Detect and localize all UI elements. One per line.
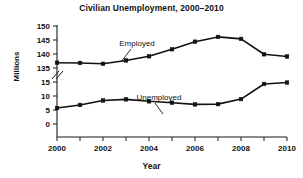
y-tick-label: 145 <box>37 36 51 45</box>
x-tick-label: 2002 <box>94 144 112 153</box>
data-point-marker <box>147 54 151 58</box>
data-point-marker <box>101 62 105 66</box>
data-point-marker <box>216 35 220 39</box>
plot-area: 051015135140145150 200020022004200620082… <box>0 0 303 178</box>
x-tick-label: 2004 <box>140 144 158 153</box>
data-point-marker <box>55 61 59 65</box>
y-tick-label: 15 <box>41 78 50 87</box>
series-annotation-unemployed: Unemployed <box>137 93 182 102</box>
x-axis-ticks: 200020022004200620082010 <box>48 137 296 153</box>
x-tick-label: 2000 <box>48 144 66 153</box>
data-point-marker <box>285 55 289 59</box>
data-point-marker <box>170 47 174 51</box>
data-point-marker <box>101 99 105 103</box>
y-axis-ticks: 051015135140145150 <box>37 22 57 129</box>
data-point-marker <box>193 103 197 107</box>
series-annotation-employed: Employed <box>119 39 155 48</box>
y-tick-label: 10 <box>41 92 50 101</box>
y-tick-label: 140 <box>37 50 51 59</box>
chart-figure: Civilian Unemployment, 2000–2010 Million… <box>0 0 303 178</box>
x-tick-label: 2010 <box>278 144 296 153</box>
data-point-marker <box>78 61 82 65</box>
data-point-marker <box>55 106 59 110</box>
x-tick-label: 2006 <box>186 144 204 153</box>
x-tick-label: 2008 <box>232 144 250 153</box>
data-point-marker <box>124 98 128 102</box>
data-point-marker <box>262 82 266 86</box>
y-tick-label: 135 <box>37 64 51 73</box>
y-tick-label: 150 <box>37 22 51 31</box>
data-point-marker <box>78 103 82 107</box>
y-tick-label: 5 <box>46 106 51 115</box>
data-point-marker <box>216 102 220 106</box>
data-point-marker <box>239 97 243 101</box>
y-tick-label: 0 <box>46 120 51 129</box>
data-point-marker <box>239 37 243 41</box>
data-point-marker <box>193 40 197 44</box>
data-point-marker <box>262 52 266 56</box>
data-point-marker <box>124 59 128 63</box>
data-point-marker <box>285 81 289 85</box>
axis-frame <box>57 25 287 137</box>
